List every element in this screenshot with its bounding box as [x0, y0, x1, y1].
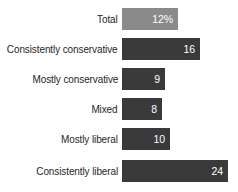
- bar-mostly-conservative: 9: [122, 68, 165, 90]
- bar-value-label: 12%: [152, 8, 173, 30]
- bar-value-label: 24: [212, 160, 223, 182]
- chart-row: Mixed 8: [0, 98, 238, 120]
- chart-row: Mostly conservative 9: [0, 68, 238, 90]
- bar-value-label: 10: [154, 128, 165, 150]
- chart-row: Consistently conservative 16: [0, 38, 238, 60]
- category-label: Mixed: [92, 98, 118, 120]
- bar-value-label: 9: [154, 68, 160, 90]
- bar-mostly-liberal: 10: [122, 128, 170, 150]
- chart-row: Mostly liberal 10: [0, 128, 238, 150]
- chart-row: Consistently liberal 24: [0, 160, 238, 182]
- category-label: Total: [97, 8, 118, 30]
- category-label: Mostly liberal: [61, 128, 118, 150]
- category-label: Consistently conservative: [7, 38, 118, 60]
- bar-value-label: 16: [184, 38, 195, 60]
- horizontal-bar-chart: Total 12% Consistently conservative 16 M…: [0, 0, 238, 192]
- bar-value-label: 8: [151, 98, 157, 120]
- bar-consistently-conservative: 16: [122, 38, 200, 60]
- chart-row: Total 12%: [0, 8, 238, 30]
- bar-consistently-liberal: 24: [122, 160, 228, 182]
- bar-mixed: 8: [122, 98, 162, 120]
- category-label: Consistently liberal: [36, 160, 118, 182]
- category-label: Mostly conservative: [32, 68, 118, 90]
- bar-total: 12%: [122, 8, 178, 30]
